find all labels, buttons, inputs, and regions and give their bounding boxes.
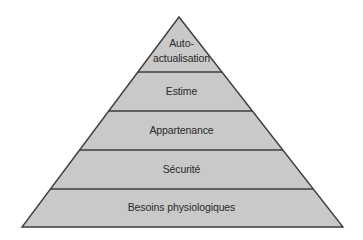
level-safety-label: Sécurité [0,163,363,176]
level-self-actualization-line2: actualisation [0,52,363,65]
level-esteem: Estime [0,85,363,98]
level-belonging-label: Appartenance [0,124,363,137]
level-physiological-label: Besoins physiologiques [0,201,363,214]
level-safety: Sécurité [0,163,363,176]
level-self-actualization-line1: Auto- [0,37,363,50]
level-belonging: Appartenance [0,124,363,137]
level-self-actualization: Auto- actualisation [0,37,363,65]
level-physiological: Besoins physiologiques [0,201,363,214]
level-esteem-label: Estime [0,85,363,98]
